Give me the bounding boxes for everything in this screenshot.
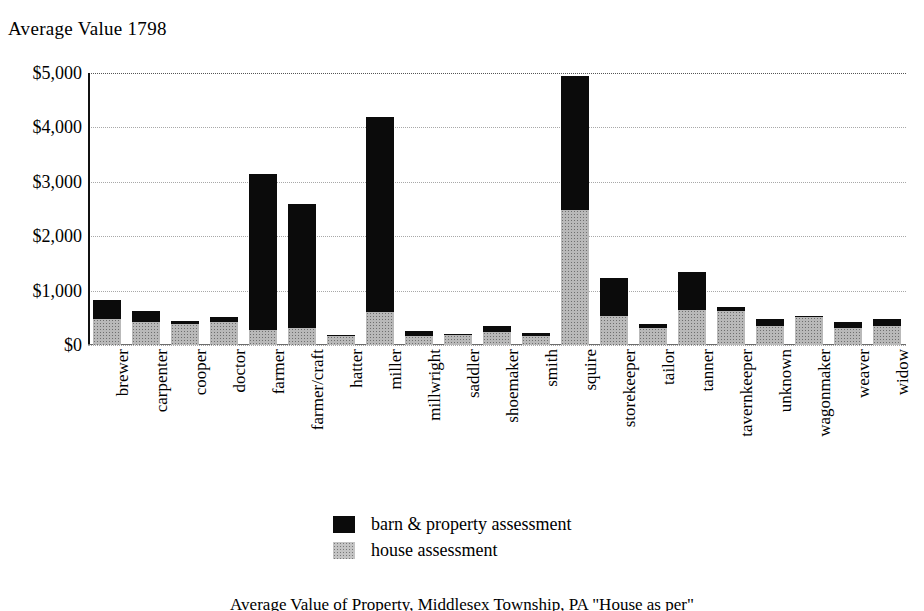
x-axis-category-label: shoemaker — [504, 349, 521, 481]
bar-group[interactable] — [522, 333, 550, 346]
bar-segment-barn-property-assessment[interactable] — [717, 307, 745, 310]
x-axis-category-label: widow — [894, 349, 911, 481]
bar-segment-barn-property-assessment[interactable] — [873, 319, 901, 326]
y-axis-tick-labels: $5,000$4,000$3,000$2,000$1,000$0 — [0, 73, 82, 345]
bar-segment-barn-property-assessment[interactable] — [249, 174, 277, 330]
bar-group[interactable] — [288, 204, 316, 345]
bar-segment-house-assessment[interactable] — [678, 310, 706, 345]
x-axis-category-label: millwright — [426, 349, 443, 481]
x-axis-category-label: tanner — [699, 349, 716, 481]
bar-segment-house-assessment[interactable] — [210, 322, 238, 345]
bar-group[interactable] — [756, 319, 784, 345]
bar-segment-house-assessment[interactable] — [561, 210, 589, 345]
chart-title: Average Value 1798 — [8, 18, 167, 40]
bar-segment-barn-property-assessment[interactable] — [132, 311, 160, 322]
bar-group[interactable] — [210, 317, 238, 345]
y-axis-tick-label: $3,000 — [2, 173, 82, 191]
bar-segment-barn-property-assessment[interactable] — [834, 322, 862, 328]
bar-segment-house-assessment[interactable] — [795, 317, 823, 345]
bar-segment-barn-property-assessment[interactable] — [288, 204, 316, 328]
bar-segment-barn-property-assessment[interactable] — [522, 333, 550, 337]
bar-group[interactable] — [132, 311, 160, 345]
figure-caption: Average Value of Property, Middlesex Tow… — [0, 595, 924, 611]
legend-item[interactable]: barn & property assessment — [333, 511, 673, 537]
x-axis-category-label: tailor — [660, 349, 677, 481]
bar-segment-house-assessment[interactable] — [171, 324, 199, 345]
bar-segment-house-assessment[interactable] — [756, 326, 784, 345]
bar-group[interactable] — [717, 307, 745, 345]
bar-group[interactable] — [678, 272, 706, 345]
y-axis-tick-label: $1,000 — [2, 282, 82, 300]
bar-group[interactable] — [444, 334, 472, 345]
bar-segment-house-assessment[interactable] — [873, 326, 901, 345]
bar-segment-house-assessment[interactable] — [834, 328, 862, 345]
bar-group[interactable] — [600, 278, 628, 345]
x-axis-category-labels: brewercarpentercooperdoctorfarmerfarmer/… — [88, 349, 906, 484]
x-axis-category-label: tavernkeeper — [738, 349, 755, 481]
bar-segment-house-assessment[interactable] — [717, 311, 745, 345]
bar-segment-house-assessment[interactable] — [639, 328, 667, 345]
x-axis-category-label: storekeeper — [621, 349, 638, 481]
y-axis-tick-label: $4,000 — [2, 118, 82, 136]
bar-segment-house-assessment[interactable] — [405, 336, 433, 345]
y-axis-tick-label: $0 — [2, 336, 82, 354]
x-axis-category-label: farmer/craft — [309, 349, 326, 481]
bar-segment-barn-property-assessment[interactable] — [171, 321, 199, 324]
legend-label: barn & property assessment — [371, 515, 571, 533]
x-axis-category-label: carpenter — [153, 349, 170, 481]
x-axis-category-label: saddler — [465, 349, 482, 481]
bar-segment-barn-property-assessment[interactable] — [756, 319, 784, 326]
bar-segment-house-assessment[interactable] — [249, 330, 277, 345]
bar-segment-barn-property-assessment[interactable] — [444, 334, 472, 336]
bar-segment-barn-property-assessment[interactable] — [639, 324, 667, 328]
bar-segment-barn-property-assessment[interactable] — [678, 272, 706, 310]
bar-group[interactable] — [639, 324, 667, 345]
bar-segment-barn-property-assessment[interactable] — [600, 278, 628, 316]
chart-page: Average Value 1798 $5,000$4,000$3,000$2,… — [0, 0, 924, 611]
gridline — [88, 345, 906, 347]
plot-area — [88, 73, 906, 345]
bar-segment-house-assessment[interactable] — [483, 332, 511, 345]
legend-item[interactable]: house assessment — [333, 537, 673, 563]
bar-segment-barn-property-assessment[interactable] — [327, 335, 355, 336]
x-axis-category-label: weaver — [855, 349, 872, 481]
bar-segment-house-assessment[interactable] — [93, 319, 121, 345]
bar-group[interactable] — [249, 174, 277, 345]
bar-group[interactable] — [834, 322, 862, 345]
y-axis-tick-label: $2,000 — [2, 227, 82, 245]
legend-swatch — [333, 542, 355, 559]
bar-group[interactable] — [171, 321, 199, 345]
x-axis-category-label: squire — [582, 349, 599, 481]
bar-group[interactable] — [873, 319, 901, 345]
x-axis-category-label: hatter — [348, 349, 365, 481]
bar-group[interactable] — [483, 326, 511, 345]
bar-segment-barn-property-assessment[interactable] — [405, 331, 433, 336]
x-axis-category-label: doctor — [231, 349, 248, 481]
x-axis-category-label: miller — [387, 349, 404, 481]
bar-segment-house-assessment[interactable] — [132, 322, 160, 345]
bar-segment-house-assessment[interactable] — [327, 336, 355, 345]
bar-segment-house-assessment[interactable] — [600, 316, 628, 345]
bar-segment-barn-property-assessment[interactable] — [93, 300, 121, 319]
x-axis-category-label: brewer — [114, 349, 131, 481]
bar-group[interactable] — [327, 335, 355, 345]
bar-group[interactable] — [561, 76, 589, 345]
bar-segment-house-assessment[interactable] — [366, 312, 394, 345]
bars-layer — [88, 73, 906, 345]
bar-segment-barn-property-assessment[interactable] — [366, 117, 394, 313]
bar-segment-house-assessment[interactable] — [444, 335, 472, 345]
x-axis-category-label: smith — [543, 349, 560, 481]
bar-segment-barn-property-assessment[interactable] — [210, 317, 238, 322]
legend-swatch — [333, 516, 355, 533]
bar-group[interactable] — [405, 331, 433, 345]
bar-segment-house-assessment[interactable] — [522, 336, 550, 345]
bar-segment-barn-property-assessment[interactable] — [561, 76, 589, 210]
bar-segment-barn-property-assessment[interactable] — [483, 326, 511, 332]
x-axis-category-label: farmer — [270, 349, 287, 481]
x-axis-category-label: unknown — [777, 349, 794, 481]
bar-segment-house-assessment[interactable] — [288, 328, 316, 345]
bar-group[interactable] — [93, 300, 121, 345]
bar-group[interactable] — [366, 117, 394, 345]
bar-segment-barn-property-assessment[interactable] — [795, 316, 823, 317]
bar-group[interactable] — [795, 316, 823, 345]
